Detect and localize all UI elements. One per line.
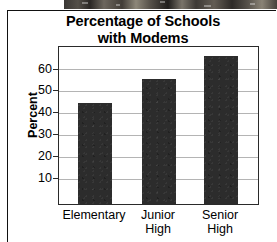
bar-senior-high (204, 56, 238, 204)
y-tick-label-30: 30 (26, 127, 52, 141)
y-tick-label-40: 40 (26, 105, 52, 119)
chart-title-line-1: Percentage of Schools (18, 13, 268, 30)
x-label-line: High (172, 222, 268, 236)
photo-strip-decoration (64, 0, 277, 9)
plot-area (58, 46, 259, 205)
chart-title-line-2: with Modems (18, 30, 268, 47)
y-tick-label-50: 50 (26, 83, 52, 97)
bar-junior-high (142, 79, 176, 204)
bar-elementary (78, 103, 112, 204)
y-tick-label-60: 60 (26, 62, 52, 76)
x-category-label-senior-high: Senior High (172, 208, 268, 236)
chart-figure: Percentage of Schools with Modems Percen… (0, 0, 277, 242)
y-tick-label-10: 10 (26, 171, 52, 185)
chart-title: Percentage of Schools with Modems (18, 13, 268, 47)
x-label-line: Senior (172, 208, 268, 222)
y-tick-label-20: 20 (26, 149, 52, 163)
